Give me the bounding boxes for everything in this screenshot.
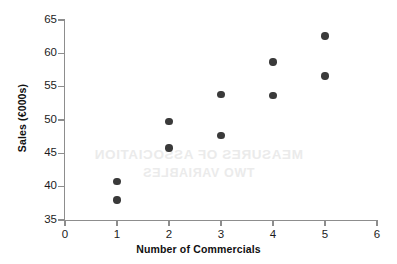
data-point [217,91,224,98]
y-tick-mark [58,186,64,187]
data-point [321,72,328,79]
x-tick-label: 4 [261,228,285,240]
y-axis-title: Sales (€000s) [16,58,28,178]
y-tick-label: 40 [29,179,57,191]
x-tick-label: 0 [53,228,77,240]
x-tick-mark [376,220,377,226]
x-tick-mark [272,220,273,226]
y-axis-line [64,19,65,221]
data-point [165,118,172,125]
x-tick-mark [324,220,325,226]
y-tick-mark [58,119,64,120]
data-point [269,92,276,99]
y-tick-mark [58,86,64,87]
x-tick-label: 6 [365,228,389,240]
y-tick-mark [58,19,64,20]
scatter-plot-figure: MEASURES OF ASSOCIATION TWO VARIABLES Nu… [0,0,397,264]
y-tick-label: 35 [29,213,57,225]
y-tick-mark [58,53,64,54]
x-axis-title: Number of Commercials [0,243,397,255]
x-tick-mark [220,220,221,226]
x-tick-mark [64,220,65,226]
x-tick-label: 2 [157,228,181,240]
y-tick-label: 55 [29,79,57,91]
x-tick-mark [168,220,169,226]
x-tick-label: 5 [313,228,337,240]
x-tick-label: 3 [209,228,233,240]
plot-area [65,20,377,220]
data-point [113,196,120,203]
y-tick-label: 65 [29,13,57,25]
data-point [217,132,224,139]
y-tick-mark [58,153,64,154]
y-tick-label: 50 [29,113,57,125]
x-tick-label: 1 [105,228,129,240]
data-point [321,32,328,39]
y-tick-mark [58,219,64,220]
x-tick-mark [116,220,117,226]
data-point [269,58,276,65]
data-point [165,144,172,151]
y-tick-label: 45 [29,146,57,158]
data-point [113,178,120,185]
y-tick-label: 60 [29,46,57,58]
